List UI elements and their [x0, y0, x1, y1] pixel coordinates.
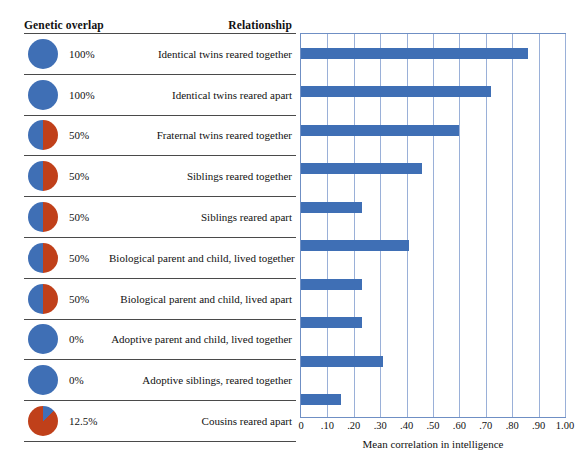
x-axis-tick-label: .40 [400, 420, 413, 431]
pie-slice [28, 406, 58, 436]
relationship-label: Identical twins reared together [109, 48, 296, 60]
genetic-overlap-value: 12.5% [69, 415, 109, 427]
relationship-label: Identical twins reared apart [109, 89, 296, 101]
pie-slice [28, 365, 58, 395]
bar [301, 356, 383, 367]
relationship-label: Adoptive parent and child, lived togethe… [109, 333, 296, 345]
genetic-overlap-pie-icon [26, 241, 60, 275]
bar-row [301, 111, 565, 150]
relationship-label: Adoptive siblings, reared together [109, 374, 296, 386]
genetic-overlap-value: 100% [69, 89, 109, 101]
table-row: 50%Biological parent and child, lived ap… [24, 278, 296, 319]
table-row: 100%Identical twins reared apart [24, 74, 296, 115]
relationship-label: Siblings reared apart [109, 211, 296, 223]
genetic-overlap-pie-icon [26, 200, 60, 234]
bar [301, 317, 362, 328]
table-row: 0%Adoptive siblings, reared together [24, 359, 296, 400]
genetic-overlap-pie-icon [26, 404, 60, 438]
column-header-relationship: Relationship [228, 19, 292, 31]
bar [301, 279, 362, 290]
x-axis-title: Mean correlation in intelligence [300, 438, 566, 450]
relationship-table: Genetic overlap Relationship 100%Identic… [0, 0, 298, 475]
relationship-label: Biological parent and child, lived toget… [109, 252, 299, 264]
relationship-label: Biological parent and child, lived apart [109, 293, 296, 305]
table-row: 50%Siblings reared together [24, 155, 296, 196]
x-axis-tick-label: 1.00 [556, 420, 574, 431]
genetic-overlap-value: 50% [69, 211, 109, 223]
bar-chart-panel: 0.10.20.30.40.50.60.70.80.901.00 Mean co… [298, 0, 588, 475]
table-row: 0%Adoptive parent and child, lived toget… [24, 319, 296, 360]
table-column-headers: Genetic overlap Relationship [24, 13, 292, 31]
genetic-overlap-pie-icon [26, 159, 60, 193]
bar-row [301, 304, 565, 343]
table-row: 50%Fraternal twins reared together [24, 115, 296, 156]
genetic-overlap-value: 50% [69, 252, 109, 264]
bar [301, 163, 422, 174]
bar-row [301, 73, 565, 112]
genetic-overlap-value: 50% [69, 293, 109, 305]
relationship-label: Fraternal twins reared together [109, 129, 296, 141]
x-axis-tick-labels: 0.10.20.30.40.50.60.70.80.901.00 [300, 420, 566, 434]
genetic-overlap-value: 0% [69, 374, 109, 386]
genetic-overlap-pie-icon [26, 118, 60, 152]
bar-row [301, 34, 565, 73]
pie-slice [28, 80, 58, 110]
pie-slice [28, 39, 58, 69]
x-axis-tick-label: .30 [374, 420, 387, 431]
relationship-label: Cousins reared apart [109, 415, 296, 427]
pie-slice [28, 284, 58, 314]
genetic-overlap-value: 0% [69, 333, 109, 345]
bar-row [301, 381, 565, 420]
genetic-overlap-pie-icon [26, 363, 60, 397]
bar [301, 125, 459, 136]
genetic-overlap-correlation-figure: Genetic overlap Relationship 100%Identic… [0, 0, 588, 475]
x-axis-tick-label: .70 [479, 420, 492, 431]
relationship-label: Siblings reared together [109, 170, 296, 182]
column-header-genetic-overlap: Genetic overlap [24, 19, 104, 31]
bar-row [301, 265, 565, 304]
bar [301, 240, 409, 251]
x-axis-tick-label: 0 [298, 420, 303, 431]
plot-area [300, 33, 566, 418]
gridline [565, 34, 566, 417]
x-axis-tick-label: .60 [453, 420, 466, 431]
x-axis-tick-label: .80 [506, 420, 519, 431]
bar-row [301, 150, 565, 189]
x-axis-tick-label: .90 [532, 420, 545, 431]
pie-slice [28, 202, 58, 232]
bar [301, 394, 341, 405]
genetic-overlap-pie-icon [26, 322, 60, 356]
x-axis-tick-label: .10 [321, 420, 334, 431]
table-row: 12.5%Cousins reared apart [24, 400, 296, 442]
genetic-overlap-value: 100% [69, 48, 109, 60]
table-body: 100%Identical twins reared together100%I… [24, 33, 296, 442]
genetic-overlap-value: 50% [69, 129, 109, 141]
pie-slice [28, 324, 58, 354]
bar-row [301, 188, 565, 227]
table-row: 50%Siblings reared apart [24, 196, 296, 237]
genetic-overlap-pie-icon [26, 37, 60, 71]
bar-row [301, 342, 565, 381]
genetic-overlap-pie-icon [26, 78, 60, 112]
table-row: 100%Identical twins reared together [24, 33, 296, 74]
bar [301, 86, 491, 97]
bar [301, 48, 528, 59]
pie-slice [28, 243, 58, 273]
pie-slice [28, 161, 58, 191]
genetic-overlap-pie-icon [26, 282, 60, 316]
bar [301, 202, 362, 213]
table-row: 50%Biological parent and child, lived to… [24, 237, 296, 278]
x-axis-tick-label: .20 [347, 420, 360, 431]
pie-slice [28, 120, 58, 150]
genetic-overlap-value: 50% [69, 170, 109, 182]
x-axis-tick-label: .50 [426, 420, 439, 431]
bar-row [301, 227, 565, 266]
